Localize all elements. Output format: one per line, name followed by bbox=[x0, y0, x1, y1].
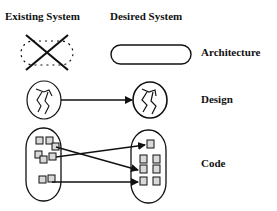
desired-code-container bbox=[131, 130, 166, 203]
existing-design-circle-icon bbox=[27, 81, 61, 119]
code-arrow-1 bbox=[56, 147, 138, 170]
desired-design-circle-icon bbox=[133, 82, 167, 118]
desired-architecture-shape bbox=[111, 45, 191, 64]
existing-code-container bbox=[26, 128, 61, 201]
existing-architecture-crossed-icon bbox=[21, 35, 73, 70]
diagram-canvas bbox=[0, 0, 277, 211]
